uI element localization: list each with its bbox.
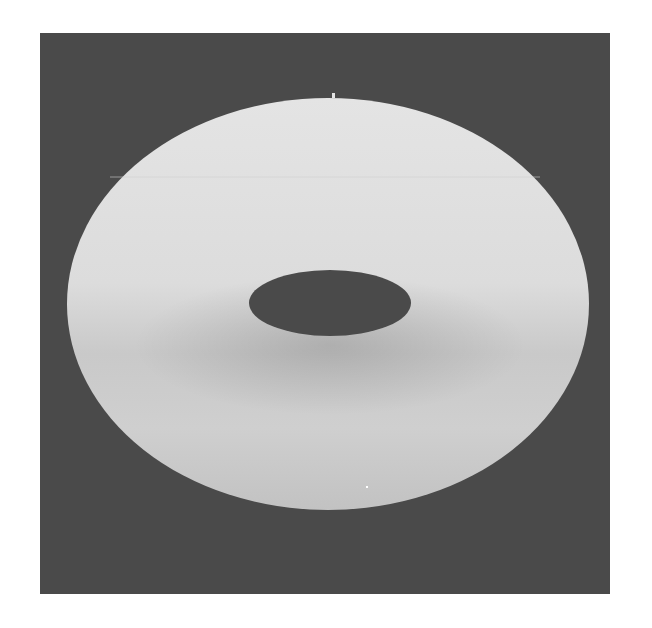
specular-speck bbox=[366, 486, 368, 488]
torus-render bbox=[40, 33, 610, 594]
top-pixel-artifact bbox=[332, 93, 335, 98]
torus-figure bbox=[40, 33, 610, 594]
torus-hole bbox=[249, 270, 411, 336]
